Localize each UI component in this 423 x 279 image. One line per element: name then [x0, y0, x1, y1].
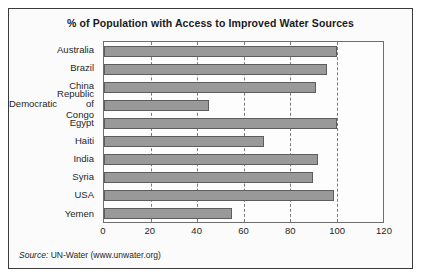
y-label-india: India — [9, 150, 99, 168]
x-tick-0: 0 — [100, 225, 105, 236]
bar-india — [104, 154, 318, 165]
x-axis-tick-labels: 020406080100120 — [103, 225, 384, 241]
bar-row — [104, 78, 383, 96]
x-tick-40: 40 — [191, 225, 202, 236]
x-tick-80: 80 — [285, 225, 296, 236]
bar-row — [104, 132, 383, 150]
y-label-yemen: Yemen — [9, 205, 99, 223]
y-axis-category-labels: AustraliaBrazilChinaDemocraticRepublic o… — [9, 41, 99, 223]
bar-usa — [104, 190, 334, 201]
source-text: UN-Water (www.unwater.org) — [48, 250, 161, 260]
x-tick-60: 60 — [238, 225, 249, 236]
bar-australia — [104, 46, 337, 57]
bar-row — [104, 60, 383, 78]
bar-syria — [104, 172, 313, 183]
bar-row — [104, 114, 383, 132]
bar-brazil — [104, 64, 327, 75]
y-label-usa: USA — [9, 187, 99, 205]
plot-area — [103, 41, 384, 223]
y-label-egypt: Egypt — [9, 114, 99, 132]
bar-yemen — [104, 208, 232, 219]
bar-row — [104, 168, 383, 186]
bar-series — [104, 42, 383, 222]
chart-title: % of Population with Access to Improved … — [9, 17, 412, 29]
bar-china — [104, 82, 316, 93]
bar-row — [104, 204, 383, 222]
x-tick-120: 120 — [376, 225, 392, 236]
chart-figure: % of Population with Access to Improved … — [8, 8, 413, 269]
x-tick-20: 20 — [145, 225, 156, 236]
source-label: Source: — [19, 250, 48, 260]
bar-democratic-republic-of-congo — [104, 100, 209, 111]
y-label-democratic-republic-of-congo: DemocraticRepublic of Congo — [9, 96, 99, 114]
bar-row — [104, 42, 383, 60]
bar-egypt — [104, 118, 337, 129]
y-label-syria: Syria — [9, 168, 99, 186]
bar-row — [104, 186, 383, 204]
y-label-brazil: Brazil — [9, 59, 99, 77]
y-label-australia: Australia — [9, 41, 99, 59]
source-note: Source: UN-Water (www.unwater.org) — [19, 250, 161, 260]
bar-row — [104, 96, 383, 114]
x-tick-100: 100 — [329, 225, 345, 236]
bar-row — [104, 150, 383, 168]
y-label-haiti: Haiti — [9, 132, 99, 150]
bar-haiti — [104, 136, 264, 147]
